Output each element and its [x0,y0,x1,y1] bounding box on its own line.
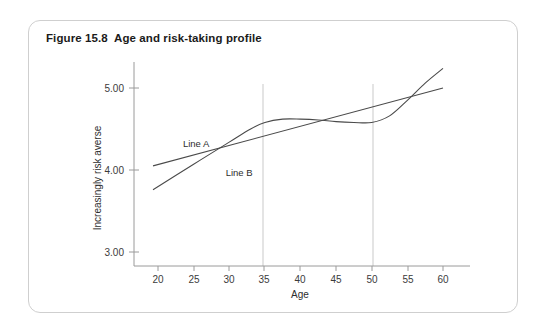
x-tick-label-25: 25 [188,274,200,285]
series-label-line-a: Line A [183,138,210,149]
y-tick-label-5: 5.00 [105,83,125,94]
x-axis-tick-labels: 20 25 30 35 40 45 50 55 60 [152,274,449,285]
x-tick-label-45: 45 [330,274,342,285]
series-line-b [153,68,443,189]
axis-spines [134,62,470,266]
series-label-line-b: Line B [226,167,253,178]
y-tick-label-3: 3.00 [105,247,125,258]
x-axis-title: Age [291,289,309,300]
x-axis-ticks [158,266,443,271]
axes [134,62,470,266]
x-tick-label-35: 35 [258,274,270,285]
series-line-a [153,88,443,166]
x-tick-label-30: 30 [223,274,235,285]
x-tick-label-55: 55 [402,274,414,285]
chart-plot: 5.00 4.00 3.00 Increasingly risk averse … [0,0,548,333]
y-tick-label-4: 4.00 [105,165,125,176]
y-axis-tick-labels: 5.00 4.00 3.00 [105,83,125,258]
y-axis-title: Increasingly risk averse [92,125,103,230]
x-tick-label-60: 60 [437,274,449,285]
x-tick-label-50: 50 [366,274,378,285]
x-tick-label-20: 20 [152,274,164,285]
x-tick-label-40: 40 [294,274,306,285]
